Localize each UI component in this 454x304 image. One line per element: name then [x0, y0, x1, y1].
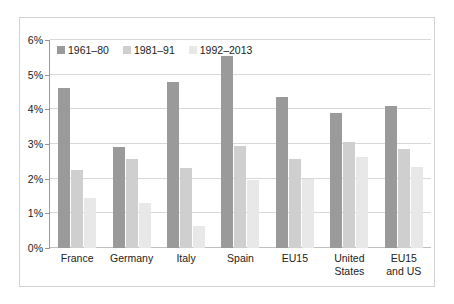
bar-group: [159, 40, 213, 248]
x-axis-tick-label: Spain: [213, 252, 267, 265]
plot-area: [50, 40, 431, 248]
legend-swatch-icon: [123, 46, 131, 54]
x-axis-labels: FranceGermanyItalySpainEU15United States…: [50, 252, 431, 298]
bar: [302, 179, 314, 248]
bar: [139, 203, 151, 248]
bar-group: [322, 40, 376, 248]
y-axis-tick: [45, 144, 49, 145]
bar: [126, 159, 138, 248]
bar: [343, 142, 355, 248]
bar: [58, 88, 70, 248]
legend-item[interactable]: 1961–80: [57, 45, 109, 55]
y-axis-tick: [45, 248, 49, 249]
bar: [113, 147, 125, 248]
bar: [411, 167, 423, 248]
bar: [385, 106, 397, 248]
legend-swatch-icon: [57, 46, 65, 54]
bar: [193, 226, 205, 248]
bar: [356, 157, 368, 248]
bar: [84, 198, 96, 248]
chart-figure: 0%1%2%3%4%5%6% 1961–801981–911992–2013 F…: [0, 0, 454, 304]
bar-group: [50, 40, 104, 248]
x-axis-tick-label: EU15 and US: [377, 252, 431, 278]
chart-legend: 1961–801981–911992–2013: [57, 45, 266, 55]
x-axis-tick-label: Italy: [159, 252, 213, 265]
legend-item[interactable]: 1992–2013: [189, 45, 253, 55]
bar: [247, 180, 259, 248]
x-axis-tick-label: United States: [322, 252, 376, 278]
legend-label: 1992–2013: [200, 45, 253, 55]
y-axis-tick-label: 5%: [17, 70, 43, 80]
legend-item[interactable]: 1981–91: [123, 45, 175, 55]
bar-group: [213, 40, 267, 248]
y-axis-tick-label: 2%: [17, 174, 43, 184]
y-axis-tick: [45, 75, 49, 76]
y-axis-tick-label: 1%: [17, 208, 43, 218]
y-axis-tick: [45, 179, 49, 180]
y-axis-tick-label: 0%: [17, 243, 43, 253]
bar: [180, 168, 192, 248]
x-axis-tick-label: Germany: [104, 252, 158, 265]
bar-group: [268, 40, 322, 248]
y-axis-tick: [45, 109, 49, 110]
bar-group: [377, 40, 431, 248]
y-axis-tick: [45, 213, 49, 214]
legend-label: 1981–91: [134, 45, 175, 55]
y-axis-tick-label: 4%: [17, 104, 43, 114]
y-axis-labels: 0%1%2%3%4%5%6%: [13, 0, 43, 304]
x-axis-tick-label: France: [50, 252, 104, 265]
bar: [276, 97, 288, 248]
bar: [71, 170, 83, 248]
legend-label: 1961–80: [68, 45, 109, 55]
y-axis-tick-label: 3%: [17, 139, 43, 149]
bar-group: [104, 40, 158, 248]
bar: [221, 56, 233, 248]
bar: [330, 113, 342, 248]
x-axis-tick-label: EU15: [268, 252, 322, 265]
bar: [398, 149, 410, 248]
y-axis-tick: [45, 40, 49, 41]
bar: [234, 146, 246, 248]
legend-swatch-icon: [189, 46, 197, 54]
bar: [167, 82, 179, 248]
y-axis-tick-label: 6%: [17, 35, 43, 45]
bar: [289, 159, 301, 248]
